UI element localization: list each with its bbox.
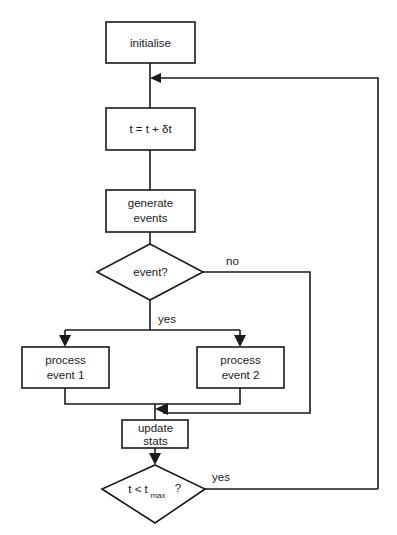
edge-label-event-no: no — [226, 255, 239, 267]
node-update-stats: update stats — [122, 420, 188, 448]
arrowhead-to-process-event-2 — [234, 335, 246, 347]
node-process-event-1-label-line1: process — [45, 354, 86, 366]
node-event-decision-label: event? — [133, 266, 168, 278]
node-time-decision-label-main: t < t — [128, 483, 148, 495]
node-time-decision: t < t max ? — [102, 465, 205, 523]
node-generate-events-label-line2: events — [134, 212, 168, 224]
node-update-stats-label-line1: update — [138, 422, 173, 434]
node-update-stats-label-line2: stats — [143, 435, 168, 447]
node-advance-time: t = t + δt — [106, 108, 195, 150]
arrowhead-to-process-event-1 — [59, 335, 71, 347]
node-time-decision-label-subscript: max — [150, 491, 165, 500]
node-generate-events: generate events — [106, 190, 195, 232]
node-process-event-2-label-line2: event 2 — [222, 369, 260, 381]
edge-process2-to-merge — [163, 388, 240, 404]
node-process-event-1-label-line2: event 1 — [47, 369, 85, 381]
edge-event-no-branch — [163, 272, 310, 413]
node-initialise-label: initialise — [130, 37, 171, 49]
node-generate-events-label-line1: generate — [128, 197, 173, 209]
node-advance-time-label: t = t + δt — [129, 123, 172, 135]
edge-label-time-yes: yes — [212, 471, 230, 483]
edge-process1-to-merge — [65, 388, 163, 404]
node-initialise: initialise — [106, 22, 195, 63]
arrowhead-outer-loop — [150, 73, 161, 83]
node-event-decision: event? — [97, 244, 203, 300]
node-time-decision-label-question: ? — [175, 482, 181, 494]
flowchart-canvas: initialise t = t + δt generate events ev… — [0, 0, 397, 535]
node-process-event-1: process event 1 — [22, 347, 109, 388]
node-process-event-2: process event 2 — [197, 347, 284, 388]
node-process-event-2-label-line1: process — [220, 354, 261, 366]
flowchart-diagram: initialise t = t + δt generate events ev… — [0, 0, 397, 535]
arrowhead-to-time-test — [149, 453, 161, 465]
edge-label-event-yes: yes — [158, 313, 176, 325]
